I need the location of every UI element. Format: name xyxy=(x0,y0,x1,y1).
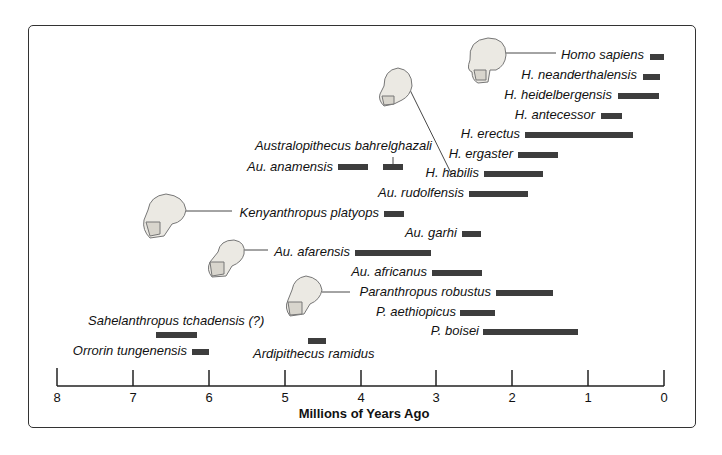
label-antecessor: H. antecessor xyxy=(515,107,595,122)
label-sahelanthropus: Sahelanthropus tchadensis (?) xyxy=(88,313,264,328)
tick-label-0: 0 xyxy=(660,390,667,405)
range-bar xyxy=(384,211,404,217)
range-bar xyxy=(338,164,368,170)
label-orrorin: Orrorin tungenensis xyxy=(73,343,187,358)
label-erectus: H. erectus xyxy=(461,126,520,141)
homo-habilis-skull-icon xyxy=(380,68,413,106)
range-bar xyxy=(525,132,633,138)
label-habilis: H. habilis xyxy=(426,165,479,180)
label-robustus: Paranthropus robustus xyxy=(359,284,491,299)
range-bar xyxy=(156,332,197,338)
label-boisei: P. boisei xyxy=(431,323,479,338)
label-rudolfensis: Au. rudolfensis xyxy=(378,185,464,200)
range-bar xyxy=(462,231,481,237)
label-ergaster: H. ergaster xyxy=(449,146,513,161)
label-heidelbergensis: H. heidelbergensis xyxy=(504,87,612,102)
label-africanus: Au. africanus xyxy=(351,264,427,279)
tick-label-1: 1 xyxy=(584,390,591,405)
label-aethiopicus: P. aethiopicus xyxy=(376,304,456,319)
tick-label-3: 3 xyxy=(432,390,439,405)
label-afarensis: Au. afarensis xyxy=(274,244,350,259)
tick-label-6: 6 xyxy=(205,390,212,405)
range-bar xyxy=(650,54,664,60)
label-ardipithecus: Ardipithecus ramidus xyxy=(253,346,374,361)
label-bahrelghazali: Australopithecus bahrelghazali xyxy=(255,138,432,153)
label-anamensis: Au. anamensis xyxy=(247,159,333,174)
range-bar xyxy=(383,164,403,170)
range-bar xyxy=(496,290,553,296)
label-platyops: Kenyanthropus platyops xyxy=(240,205,379,220)
range-bar xyxy=(601,113,622,119)
afarensis-skull-icon xyxy=(208,240,244,277)
label-homo-sapiens: Homo sapiens xyxy=(561,47,644,62)
range-bar xyxy=(308,338,326,344)
range-bar xyxy=(192,349,209,355)
paranthropus-skull-icon xyxy=(286,276,322,316)
range-bar xyxy=(460,310,495,316)
range-bar xyxy=(618,93,659,99)
range-bar xyxy=(355,250,431,256)
range-bar xyxy=(432,270,482,276)
tick-label-5: 5 xyxy=(281,390,288,405)
tick-label-7: 7 xyxy=(129,390,136,405)
label-neanderthalensis: H. neanderthalensis xyxy=(521,67,637,82)
homo-sapiens-skull-icon xyxy=(468,38,506,83)
x-axis-title: Millions of Years Ago xyxy=(299,406,430,421)
x-axis xyxy=(57,368,664,386)
range-bar xyxy=(643,74,660,80)
range-bar xyxy=(484,171,543,177)
label-garhi: Au. garhi xyxy=(405,225,457,240)
range-bar xyxy=(483,329,578,335)
tick-label-2: 2 xyxy=(508,390,515,405)
tick-label-4: 4 xyxy=(357,390,364,405)
range-bar xyxy=(469,191,528,197)
kenyanthropus-skull-icon xyxy=(144,194,186,238)
tick-label-8: 8 xyxy=(53,390,60,405)
range-bar xyxy=(518,152,557,158)
